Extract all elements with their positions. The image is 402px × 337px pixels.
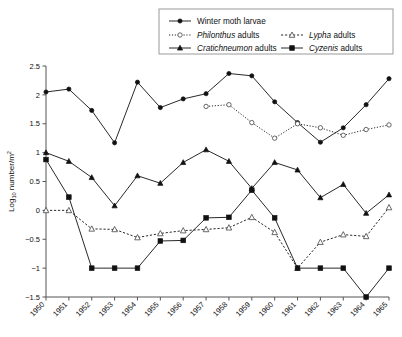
x-tick-label: 1961 (280, 300, 298, 318)
x-tick-label: 1965 (371, 300, 389, 318)
x-axis-ticks: 1950195119521953195419551956195719581959… (28, 297, 389, 318)
plot-area (43, 71, 392, 299)
series-cratichneumon-adults (43, 147, 391, 215)
y-tick-label: −1 (31, 264, 40, 273)
legend-label: Winter moth larvae (197, 17, 266, 26)
series-lypha-adults (43, 204, 392, 270)
series-markers (44, 71, 391, 144)
x-tick-label: 1963 (325, 300, 343, 318)
x-tick-label: 1964 (348, 300, 366, 318)
svg-text:Log10 number/m2: Log10 number/m2 (6, 151, 17, 212)
y-axis-ticks: −1.5−1−0.500.511.522.5 (25, 62, 46, 302)
x-tick-label: 1952 (74, 300, 92, 318)
y-tick-label: 2.5 (30, 62, 40, 71)
series-winter-moth-larvae (44, 71, 391, 144)
line-chart: −1.5−1−0.500.511.522.5Log10 number/m2195… (0, 0, 402, 337)
x-tick-label: 1956 (165, 300, 183, 318)
x-tick-label: 1959 (234, 300, 252, 318)
y-tick-label: −1.5 (25, 293, 40, 302)
y-tick-label: 1.5 (30, 119, 40, 128)
y-tick-label: 1 (36, 148, 40, 157)
x-tick-label: 1953 (97, 300, 115, 318)
x-tick-label: 1960 (257, 300, 275, 318)
axes: −1.5−1−0.500.511.522.5Log10 number/m2195… (6, 62, 389, 319)
legend: Winter moth larvaePhilonthus adultsCrati… (159, 9, 393, 54)
series-markers (43, 204, 392, 270)
x-tick-label: 1958 (211, 300, 229, 318)
x-tick-label: 1954 (120, 300, 138, 318)
x-tick-label: 1962 (302, 300, 320, 318)
y-tick-label: 2 (36, 91, 40, 100)
y-tick-label: 0 (36, 206, 40, 215)
chart-figure: −1.5−1−0.500.511.522.5Log10 number/m2195… (0, 0, 402, 337)
y-axis-label: Log10 number/m2 (6, 151, 17, 212)
x-tick-label: 1955 (142, 300, 160, 318)
legend-label: Lypha adults (309, 31, 355, 40)
x-tick-label: 1957 (188, 300, 206, 318)
series-markers (43, 147, 391, 215)
y-tick-label: −0.5 (25, 235, 40, 244)
x-tick-label: 1950 (28, 300, 46, 318)
y-tick-label: 0.5 (30, 177, 40, 186)
x-tick-label: 1951 (51, 300, 69, 318)
legend-label: Cratichneumon adults (197, 44, 277, 53)
legend-label: Cyzenis adults (309, 44, 362, 53)
legend-label: Philonthus adults (197, 31, 259, 40)
